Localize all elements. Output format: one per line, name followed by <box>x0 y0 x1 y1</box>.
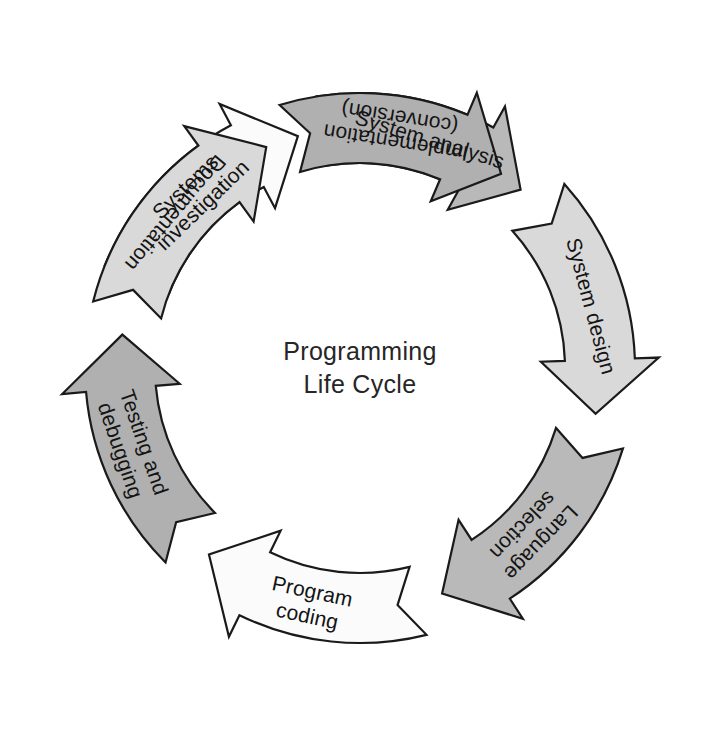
arrows-layer <box>62 93 659 643</box>
center-title-line: Life Cycle <box>304 370 417 398</box>
center-title-group: ProgrammingLife Cycle <box>283 337 436 398</box>
cycle-diagram-canvas: SystemsinvestigationSystem analysisSyste… <box>0 0 720 736</box>
center-title-line: Programming <box>283 337 436 365</box>
programming-life-cycle-diagram: SystemsinvestigationSystem analysisSyste… <box>0 0 720 736</box>
